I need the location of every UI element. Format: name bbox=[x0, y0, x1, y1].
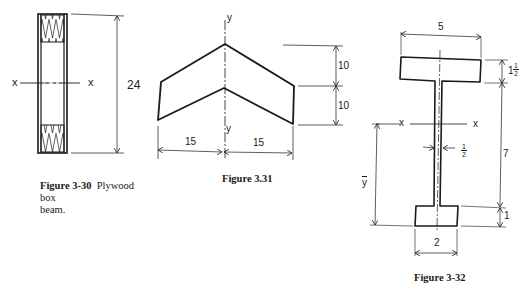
web-height-dimension-line bbox=[500, 83, 502, 207]
width-left-dimension-line bbox=[158, 150, 222, 152]
flange-thickness-denominator: 2 bbox=[514, 70, 518, 77]
x-axis-right-label: x bbox=[473, 119, 478, 129]
centroid-dimension-line bbox=[375, 124, 377, 225]
bottom-flange-width-label: 2 bbox=[434, 238, 440, 248]
figure-3-30-drawing bbox=[20, 14, 124, 153]
chevron-section bbox=[158, 44, 294, 124]
figure-3-30-caption: Figure 3-30 Plywood box beam. bbox=[40, 180, 150, 216]
figure-3-32-drawing bbox=[370, 32, 508, 256]
web-height-dimension-label: 7 bbox=[503, 149, 509, 159]
figure-3-30-number: Figure 3-30 bbox=[40, 180, 91, 191]
bottom-flange-thickness-label: 1 bbox=[504, 211, 510, 221]
y-axis-bottom-label: y bbox=[226, 124, 231, 134]
x-axis-left-label: x bbox=[399, 118, 404, 128]
width-right-dimension-label: 15 bbox=[253, 138, 264, 148]
web-thickness-denominator: 2 bbox=[462, 151, 466, 158]
y-axis-top-label: y bbox=[227, 13, 232, 23]
i-section-outline bbox=[400, 57, 481, 226]
flange-width-dimension-label: 5 bbox=[438, 22, 444, 32]
bottom-flange-lumber bbox=[41, 125, 64, 152]
web-thickness-fraction: 1 2 bbox=[461, 143, 467, 158]
flange-thickness-numerator: 1 bbox=[514, 62, 518, 69]
x-axis-left-label: x bbox=[12, 77, 18, 88]
height-dimension-label: 24 bbox=[127, 79, 140, 91]
flange-thickness-fraction: 1 2 bbox=[513, 62, 519, 77]
height-lower-dimension-label: 10 bbox=[338, 101, 349, 111]
figure-3-30-caption-line2: beam. bbox=[40, 204, 65, 215]
figure-3-32-caption: Figure 3-32 bbox=[414, 272, 465, 284]
width-right-dimension-line bbox=[224, 152, 292, 153]
web-thickness-numerator: 1 bbox=[462, 143, 466, 150]
x-axis-right-label: x bbox=[88, 77, 94, 88]
top-flange-lumber bbox=[41, 15, 64, 42]
centroid-y-bar-label: y bbox=[362, 178, 367, 188]
flange-width-dimension-line bbox=[401, 34, 481, 37]
height-upper-dimension-label: 10 bbox=[338, 61, 349, 71]
width-left-dimension-label: 15 bbox=[185, 137, 196, 147]
figure-3-31-caption: Figure 3.31 bbox=[222, 173, 273, 185]
